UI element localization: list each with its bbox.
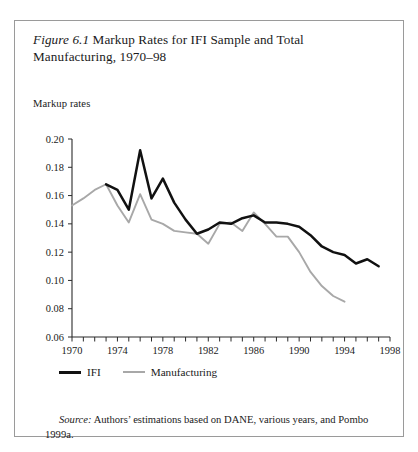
x-axis-ticks (72, 337, 390, 342)
y-tick-label: 0.12 (46, 247, 64, 258)
x-tick-label: 1994 (334, 345, 356, 356)
y-tick-label: 0.20 (46, 134, 64, 145)
y-tick-label: 0.08 (46, 303, 64, 314)
y-axis-title: Markup rates (33, 98, 90, 109)
source-text: Authors’ estimations based on DANE, vari… (45, 414, 368, 440)
y-tick-label: 0.18 (46, 162, 64, 173)
y-tick-label: 0.14 (46, 218, 65, 229)
y-axis-ticks (68, 139, 72, 337)
figure-frame: Figure 6.1 Markup Rates for IFI Sample a… (14, 20, 404, 437)
y-tick-label: 0.16 (46, 190, 64, 201)
x-tick-label: 1990 (289, 345, 310, 356)
chart-plot-area: 0.060.080.100.120.140.160.180.20 1970197… (15, 111, 403, 356)
source-note: Source: Authors’ estimations based on DA… (45, 413, 390, 442)
legend-swatch-manufacturing (123, 371, 145, 373)
y-axis-tick-labels: 0.060.080.100.120.140.160.180.20 (46, 134, 65, 343)
figure-number: Figure 6.1 (33, 32, 89, 47)
legend-item-ifi: IFI (59, 366, 101, 378)
legend-label-ifi: IFI (87, 366, 101, 378)
x-tick-label: 1974 (107, 345, 129, 356)
markup-rates-line-chart: 0.060.080.100.120.140.160.180.20 1970197… (15, 111, 403, 356)
x-tick-label: 1970 (62, 345, 83, 356)
chart-legend: IFI Manufacturing (59, 366, 217, 378)
x-tick-label: 1998 (380, 345, 401, 356)
x-tick-label: 1986 (243, 345, 264, 356)
legend-swatch-ifi (59, 371, 81, 374)
x-tick-label: 1982 (198, 345, 219, 356)
y-tick-label: 0.06 (46, 332, 64, 343)
legend-item-manufacturing: Manufacturing (123, 366, 217, 378)
legend-label-manufacturing: Manufacturing (151, 366, 217, 378)
series-line-manufacturing (72, 184, 345, 301)
x-tick-label: 1978 (152, 345, 173, 356)
x-axis-tick-labels: 19701974197819821986199019941998 (62, 345, 401, 356)
source-label: Source: (59, 414, 92, 425)
y-tick-label: 0.10 (46, 275, 64, 286)
figure-caption: Figure 6.1 Markup Rates for IFI Sample a… (33, 31, 373, 66)
